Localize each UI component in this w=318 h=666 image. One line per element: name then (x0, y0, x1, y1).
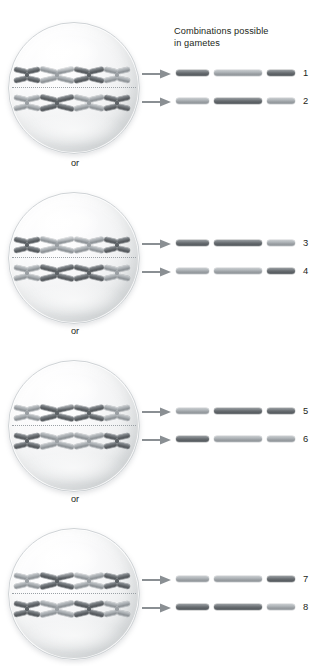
chromosome-dark (40, 573, 74, 590)
chromosome-row-top (14, 403, 134, 423)
gamete-chromosome-dark (267, 70, 295, 76)
chromosome-light (74, 237, 104, 254)
chromosome-dark (14, 601, 40, 618)
gamete-row-2: 2 (176, 94, 308, 108)
centromere (115, 607, 119, 612)
chromosome-light (14, 573, 40, 590)
chromosome-dark (104, 433, 130, 450)
gamete-chromosome-light (267, 604, 295, 610)
chromosome-light (104, 405, 130, 422)
centromere (115, 271, 119, 276)
cell-2 (8, 192, 140, 324)
chromosome-light (14, 95, 40, 112)
meiosis-arrow-icon (142, 603, 172, 613)
chromatid-arm (57, 572, 75, 581)
centromere (55, 243, 59, 248)
gamete-row-1: 1 (176, 66, 308, 80)
gamete-row-3: 3 (176, 236, 308, 250)
gamete-chromosome-light (267, 240, 295, 246)
centromere (55, 439, 59, 444)
centromere (25, 73, 29, 78)
gamete-chromosome-dark (214, 408, 262, 414)
centromere (115, 579, 119, 584)
cell-1 (8, 22, 140, 154)
chromosome-light (74, 95, 104, 112)
chromosome-light (40, 433, 74, 450)
chromosome-light (14, 405, 40, 422)
centromere (25, 439, 29, 444)
chromatid-arm (89, 413, 105, 422)
or-2: or (0, 326, 150, 336)
chromosome-row-top (14, 235, 134, 255)
chromatid-arm (57, 600, 75, 609)
centromere (25, 607, 29, 612)
chromatid-arm (57, 66, 75, 75)
assortment-group-2: 34 (0, 192, 318, 326)
gamete-row-7: 7 (176, 572, 308, 586)
chromosome-dark (104, 237, 130, 254)
gamete-number-label: 6 (303, 434, 308, 444)
gamete-number-label: 1 (303, 68, 308, 78)
centromere (25, 101, 29, 106)
meiosis-arrow-icon (142, 69, 172, 79)
chromosome-light (40, 237, 74, 254)
chromatid-arm (89, 103, 105, 112)
chromosome-row-top (14, 65, 134, 85)
meiosis-arrow-icon (142, 575, 172, 585)
chromosome-light (104, 67, 130, 84)
chromosome-dark (14, 433, 40, 450)
gamete-row-6: 6 (176, 432, 308, 446)
meiosis-arrow-icon (142, 435, 172, 445)
centromere (115, 411, 119, 416)
gamete-chromosome-light (176, 408, 209, 414)
chromosome-dark (74, 405, 104, 422)
gamete-chromosome-dark (176, 604, 209, 610)
gamete-chromosome-light (214, 576, 262, 582)
centromere (55, 607, 59, 612)
chromatid-arm (89, 75, 105, 84)
chromosome-light (14, 265, 40, 282)
centromere (25, 271, 29, 276)
chromatid-arm (89, 273, 105, 282)
gamete-chromosome-dark (176, 240, 209, 246)
gamete-number-label: 7 (303, 574, 308, 584)
meiosis-arrow-icon (142, 267, 172, 277)
gamete-number-label: 8 (303, 602, 308, 612)
chromosome-dark (74, 601, 104, 618)
assortment-group-1: 12 (0, 22, 318, 156)
gamete-chromosome-dark (267, 268, 295, 274)
chromatid-arm (57, 75, 75, 84)
chromatid-arm (57, 236, 75, 245)
centromere (87, 243, 91, 248)
chromatid-arm (57, 609, 75, 618)
chromosome-dark (40, 405, 74, 422)
chromatid-arm (57, 94, 75, 103)
chromatid-arm (89, 245, 105, 254)
cell-3 (8, 360, 140, 492)
meiosis-arrow-icon (142, 239, 172, 249)
gamete-row-5: 5 (176, 404, 308, 418)
centromere (115, 439, 119, 444)
gamete-chromosome-light (214, 436, 262, 442)
gamete-chromosome-dark (214, 98, 262, 104)
chromosome-dark (104, 573, 130, 590)
metaphase-plate-line (12, 87, 136, 88)
centromere (55, 579, 59, 584)
chromatid-arm (57, 245, 75, 254)
centromere (55, 73, 59, 78)
independent-assortment-diagram: Combinations possible in gametes 1234567… (0, 0, 318, 666)
centromere (115, 243, 119, 248)
chromosome-light (74, 573, 104, 590)
or-3: or (0, 494, 150, 504)
gamete-number-label: 4 (303, 266, 308, 276)
chromosome-row-top (14, 571, 134, 591)
gamete-chromosome-light (176, 98, 209, 104)
gamete-number-label: 5 (303, 406, 308, 416)
chromatid-arm (57, 103, 75, 112)
chromosome-row-bottom (14, 431, 134, 451)
gamete-number-label: 3 (303, 238, 308, 248)
chromosome-light (74, 433, 104, 450)
chromosome-dark (104, 95, 130, 112)
chromatid-arm (57, 264, 75, 273)
chromosome-dark (14, 237, 40, 254)
